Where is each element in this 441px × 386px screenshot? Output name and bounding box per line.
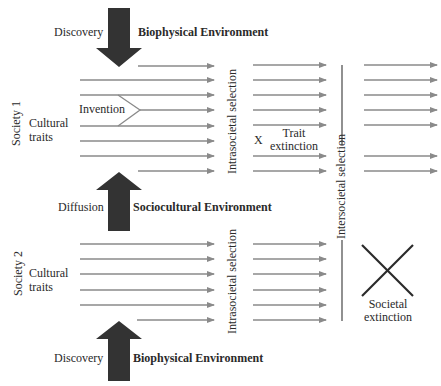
society1-intersocietal-arrows: [364, 65, 437, 171]
society2-cultural-label: Cultural: [29, 267, 68, 280]
society1-label: Society 1: [10, 101, 23, 146]
biophysical-env-top-label: Biophysical Environment: [138, 26, 268, 39]
intersocietal-selection-label: Intersocietal selection: [335, 134, 348, 239]
society1-selected-arrows: [253, 65, 326, 171]
societal-extinction-x: [362, 245, 413, 296]
trait-extinction-line2: extinction: [264, 140, 324, 153]
society1-trait-arrows: [80, 66, 214, 171]
intrasocietal-selection-label-2: Intrasocietal selection: [226, 229, 239, 334]
discovery-bottom-label: Discovery: [54, 352, 103, 365]
society2-selected-arrows: [253, 244, 326, 320]
biophysical-env-bottom-label: Biophysical Environment: [133, 352, 263, 365]
diagram-canvas: [0, 0, 441, 386]
society2-trait-arrows: [80, 244, 214, 320]
intrasocietal-selection-label-1: Intrasocietal selection: [226, 69, 239, 174]
diffusion-label: Diffusion: [58, 201, 104, 214]
society2-traits-label: traits: [29, 281, 53, 294]
society1-traits-label: traits: [29, 131, 53, 144]
sociocultural-env-label: Sociocultural Environment: [133, 201, 272, 214]
trait-extinction-x: X: [254, 134, 263, 147]
discovery-top-label: Discovery: [54, 26, 103, 39]
invention-label: Invention: [79, 103, 125, 116]
societal-extinction-line2: extinction: [358, 311, 418, 324]
society2-label: Society 2: [12, 251, 25, 296]
society1-cultural-label: Cultural: [29, 117, 68, 130]
